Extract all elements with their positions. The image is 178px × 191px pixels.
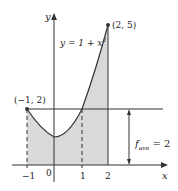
tick-label-neg1: −1 (22, 171, 35, 181)
tick-label-2: 2 (105, 171, 111, 181)
point-left-label: (−1, 2) (14, 95, 46, 105)
favg-arrow-up-icon (127, 109, 131, 115)
favg-label: fave = 2 (134, 138, 170, 151)
average-value-diagram: y x (2, 5) (−1, 2) y = 1 + x2 fave = 2 −… (0, 0, 178, 191)
x-axis-arrow-icon (161, 162, 168, 168)
x-axis-label: x (162, 170, 168, 181)
point-right (106, 23, 110, 27)
favg-arrow-down-icon (127, 159, 131, 165)
point-left (25, 107, 29, 111)
point-right-label: (2, 5) (112, 20, 136, 30)
y-axis-arrow-icon (51, 13, 57, 20)
tick-label-1: 1 (80, 171, 86, 181)
tick-label-0: 0 (46, 168, 52, 178)
function-label: y = 1 + x2 (59, 36, 106, 48)
y-axis-label: y (44, 11, 51, 22)
